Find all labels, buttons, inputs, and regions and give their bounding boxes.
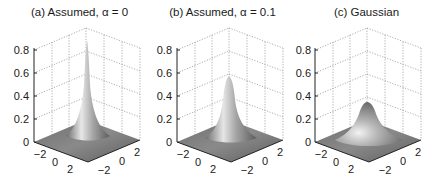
z-tick: 0.6 — [157, 67, 172, 79]
z-tick: 0.2 — [296, 113, 311, 125]
panel-b: (b) Assumed, α = 0.1 — [143, 0, 286, 180]
x-tick: −2 — [315, 148, 328, 160]
x-tick: 2 — [348, 163, 354, 175]
y-tick: 0 — [400, 155, 406, 167]
y-tick: 2 — [134, 146, 140, 158]
z-tick: 0.8 — [296, 44, 311, 56]
y-tick: −2 — [241, 164, 254, 176]
surface-plot-b: 0.8 0.6 0.4 0.2 0 −2 0 2 −2 0 2 — [143, 0, 286, 180]
x-tick: 0 — [52, 156, 58, 168]
y-tick: 2 — [277, 146, 283, 158]
panel-a: (a) Assumed, α = 0 — [0, 0, 143, 180]
z-tick: 0.2 — [157, 113, 172, 125]
x-tick: −2 — [34, 148, 47, 160]
z-tick: 0.4 — [14, 90, 29, 102]
x-tick: 2 — [210, 163, 216, 175]
surface-plot-c: 0.8 0.6 0.4 0.2 0 −2 0 2 −2 0 2 — [287, 0, 430, 180]
y-tick: 2 — [415, 146, 421, 158]
surface-peak — [335, 102, 403, 146]
x-tick: 0 — [195, 156, 201, 168]
x-tick: 2 — [67, 163, 73, 175]
z-tick: 0.4 — [157, 90, 172, 102]
y-tick: 0 — [262, 155, 268, 167]
z-tick: 0 — [166, 136, 172, 148]
x-tick: 0 — [333, 156, 339, 168]
surface-plot-a: 0.8 0.6 0.4 0.2 0 −2 0 2 −2 0 2 — [0, 0, 143, 180]
y-tick: −2 — [98, 164, 111, 176]
z-tick: 0 — [23, 136, 29, 148]
figure: (a) Assumed, α = 0 — [0, 0, 430, 180]
z-tick: 0.8 — [14, 44, 29, 56]
surface-peak — [66, 40, 110, 141]
z-tick: 0.4 — [296, 90, 311, 102]
x-tick: −2 — [177, 148, 190, 160]
y-tick: −2 — [379, 164, 392, 176]
z-tick: 0.6 — [14, 67, 29, 79]
z-tick: 0.2 — [14, 113, 29, 125]
z-tick: 0.6 — [296, 67, 311, 79]
surface-peak — [205, 76, 257, 143]
panel-c: (c) Gaussian — [287, 0, 430, 180]
z-tick: 0 — [305, 136, 311, 148]
z-tick: 0.8 — [157, 44, 172, 56]
y-tick: 0 — [119, 155, 125, 167]
